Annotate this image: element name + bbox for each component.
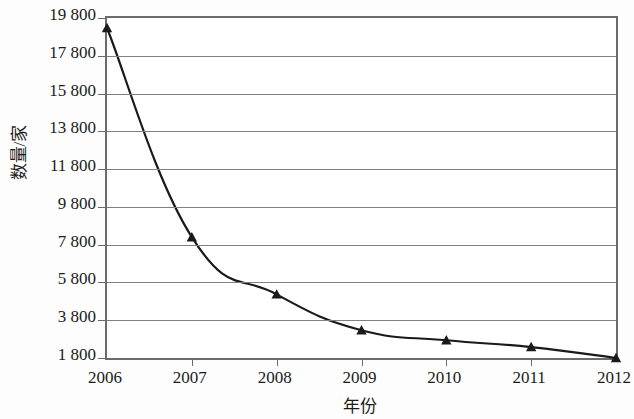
- x-tick-label: 2007: [150, 368, 230, 388]
- y-tick-label: 19 800: [10, 5, 96, 25]
- x-tick-label: 2011: [489, 368, 569, 388]
- y-axis-tick-labels: 1 8003 8005 8007 8009 80011 80013 80015 …: [0, 0, 96, 419]
- x-tick-label: 2006: [65, 368, 145, 388]
- y-tick-mark: [98, 320, 105, 321]
- y-tick-label: 9 800: [10, 194, 96, 214]
- y-tick-label: 7 800: [10, 232, 96, 252]
- x-tick-label: 2009: [320, 368, 400, 388]
- y-tick-label: 11 800: [10, 156, 96, 176]
- gridline: [107, 94, 616, 95]
- x-axis-tick-labels: 2006200720082009201020112012: [0, 368, 634, 392]
- y-tick-mark: [98, 131, 105, 132]
- series-path: [107, 28, 616, 358]
- plot-area: [105, 16, 618, 360]
- x-tick-mark: [446, 358, 447, 366]
- gridline: [107, 131, 616, 132]
- gridline: [107, 320, 616, 321]
- y-tick-label: 17 800: [10, 43, 96, 63]
- x-tick-label: 2010: [404, 368, 484, 388]
- x-axis-title-text: 年份: [343, 397, 377, 416]
- y-tick-mark: [98, 282, 105, 283]
- x-tick-mark: [362, 358, 363, 366]
- y-tick-label: 3 800: [10, 307, 96, 327]
- gridline: [107, 245, 616, 246]
- x-tick-mark: [277, 358, 278, 366]
- x-tick-mark: [192, 358, 193, 366]
- gridline: [107, 169, 616, 170]
- y-tick-mark: [98, 18, 105, 19]
- y-tick-mark: [98, 94, 105, 95]
- y-tick-mark: [98, 169, 105, 170]
- data-point-marker: [271, 289, 281, 298]
- gridline: [107, 282, 616, 283]
- x-axis-title: 年份: [0, 392, 634, 417]
- x-tick-label: 2012: [574, 368, 634, 388]
- gridline: [107, 207, 616, 208]
- y-tick-mark: [98, 245, 105, 246]
- y-tick-label: 13 800: [10, 118, 96, 138]
- x-tick-label: 2008: [235, 368, 315, 388]
- y-tick-mark: [98, 358, 105, 359]
- y-tick-label: 5 800: [10, 269, 96, 289]
- x-tick-mark: [531, 358, 532, 366]
- y-tick-label: 15 800: [10, 81, 96, 101]
- y-tick-mark: [98, 207, 105, 208]
- line-chart: 数量/家 1 8003 8005 8007 8009 80011 80013 8…: [0, 0, 634, 419]
- y-tick-mark: [98, 56, 105, 57]
- gridline: [107, 56, 616, 57]
- data-point-marker: [102, 23, 112, 32]
- y-tick-label: 1 800: [10, 345, 96, 365]
- data-series-line: [107, 18, 616, 358]
